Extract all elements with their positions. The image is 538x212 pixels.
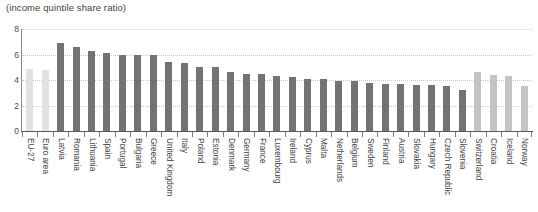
bar-slot <box>115 29 130 131</box>
bar-slot <box>84 29 99 131</box>
x-axis-tick-label: France <box>257 138 265 163</box>
x-axis-label-slot: France <box>254 138 269 210</box>
bar-slot <box>53 29 68 131</box>
bar[interactable] <box>474 72 481 131</box>
bar[interactable] <box>73 47 80 131</box>
x-axis-tick-label: Germany <box>241 138 249 172</box>
bar[interactable] <box>335 81 342 131</box>
bar[interactable] <box>196 67 203 131</box>
x-axis-label-slot: Finland <box>377 138 392 210</box>
bar[interactable] <box>273 76 280 131</box>
x-axis-tick-label: Finland <box>380 138 388 165</box>
y-axis-tick-label: 8 <box>3 25 19 34</box>
bar-slot <box>408 29 423 131</box>
bar[interactable] <box>243 74 250 131</box>
bar-slot <box>37 29 52 131</box>
bar[interactable] <box>289 77 296 131</box>
x-axis-label-slot: Iceland <box>501 138 516 210</box>
y-axis-tick-label: 2 <box>3 102 19 111</box>
x-axis-tick-label: Spain <box>102 138 110 159</box>
x-axis-label-slot: Spain <box>99 138 114 210</box>
bar[interactable] <box>26 69 33 131</box>
bar[interactable] <box>42 70 49 131</box>
x-axis-label-slot: Estonia <box>207 138 222 210</box>
x-axis-label-slot: Belgium <box>347 138 362 210</box>
bar[interactable] <box>320 79 327 131</box>
bar-slot <box>238 29 253 131</box>
x-axis-label-slot: Cyprus <box>300 138 315 210</box>
bar-slot <box>517 29 532 131</box>
bar[interactable] <box>227 72 234 131</box>
bar[interactable] <box>181 63 188 131</box>
bar-slot <box>146 29 161 131</box>
x-axis-label-slot: Malta <box>316 138 331 210</box>
x-axis-label-slot: Euro area <box>37 138 52 210</box>
bar[interactable] <box>351 81 358 131</box>
bar[interactable] <box>413 85 420 131</box>
bar[interactable] <box>397 84 404 131</box>
y-axis-tick-label: 6 <box>3 51 19 60</box>
x-axis-label-slot: EU-27 <box>22 138 37 210</box>
x-axis-labels: EU-27Euro areaLatviaRomaniaLithuaniaSpai… <box>22 138 532 210</box>
bar-slot <box>99 29 114 131</box>
x-axis-tick-label: Netherlands <box>334 138 342 182</box>
bar[interactable] <box>258 74 265 131</box>
x-axis-label-slot: Romania <box>68 138 83 210</box>
bar[interactable] <box>366 83 373 131</box>
chart-subtitle: (income quintile share ratio) <box>6 2 126 13</box>
x-axis-label-slot: Lithuania <box>84 138 99 210</box>
bar[interactable] <box>165 62 172 131</box>
bar[interactable] <box>150 55 157 132</box>
y-axis-labels: 02468 <box>0 0 19 212</box>
bar[interactable] <box>490 75 497 131</box>
x-axis-tick-label: Sweden <box>365 138 373 168</box>
x-axis-label-slot: Bulgaria <box>130 138 145 210</box>
bar-slot <box>130 29 145 131</box>
bar-slot <box>331 29 346 131</box>
bar-slot <box>470 29 485 131</box>
x-axis-label-slot: Norway <box>517 138 532 210</box>
x-axis-tick-label: Slovenia <box>458 138 466 169</box>
bar-slot <box>161 29 176 131</box>
x-axis-tick-label: Cyprus <box>303 138 311 164</box>
bars-container <box>22 29 532 131</box>
x-axis-tick-label: Malta <box>319 138 327 158</box>
bar-slot <box>501 29 516 131</box>
bar[interactable] <box>119 55 126 132</box>
x-axis-label-slot: Netherlands <box>331 138 346 210</box>
bar-slot <box>68 29 83 131</box>
bar[interactable] <box>505 76 512 131</box>
bar[interactable] <box>57 43 64 131</box>
x-axis-tick-label: Euro area <box>40 138 48 174</box>
x-axis-label-slot: Switzerland <box>470 138 485 210</box>
bar-slot <box>223 29 238 131</box>
x-axis-label-slot: Slovakia <box>408 138 423 210</box>
x-axis-tick-label: Iceland <box>504 138 512 164</box>
bar-slot <box>362 29 377 131</box>
x-axis-label-slot: Latvia <box>53 138 68 210</box>
bar[interactable] <box>304 79 311 131</box>
bar[interactable] <box>443 86 450 131</box>
x-axis-label-slot: Sweden <box>362 138 377 210</box>
x-axis-tick-label: EU-27 <box>25 138 33 161</box>
bar[interactable] <box>428 85 435 131</box>
y-axis-line <box>21 29 22 132</box>
x-axis-tick-label: Estonia <box>210 138 218 165</box>
y-axis-tick-label: 0 <box>3 127 19 136</box>
x-axis-label-slot: Austria <box>393 138 408 210</box>
bar-slot <box>347 29 362 131</box>
bar[interactable] <box>103 53 110 131</box>
x-axis-label-slot: Hungary <box>424 138 439 210</box>
bar-slot <box>439 29 454 131</box>
x-axis-tick-label: Ireland <box>288 138 296 163</box>
bar-slot <box>192 29 207 131</box>
x-axis-tick-label: Lithuania <box>87 138 95 171</box>
bar[interactable] <box>212 67 219 131</box>
bar[interactable] <box>459 90 466 131</box>
bar[interactable] <box>521 86 528 131</box>
bar[interactable] <box>88 51 95 131</box>
bar[interactable] <box>134 55 141 132</box>
x-axis-label-slot: Czech Republic <box>439 138 454 210</box>
bar-slot <box>285 29 300 131</box>
bar[interactable] <box>382 84 389 131</box>
